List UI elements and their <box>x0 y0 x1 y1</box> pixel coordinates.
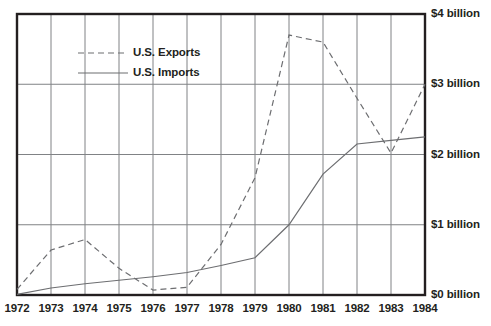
chart-plot-area <box>0 0 491 326</box>
legend-label-us-exports: U.S. Exports <box>133 46 200 58</box>
x-axis-tick-label: 1984 <box>405 302 445 314</box>
y-axis-tick-label: $2 billion <box>431 148 480 160</box>
legend-label-us-imports: U.S. Imports <box>133 66 200 78</box>
y-axis-tick-label: $4 billion <box>431 7 480 19</box>
y-axis-tick-label: $3 billion <box>431 77 480 89</box>
y-axis-tick-label: $1 billion <box>431 218 480 230</box>
y-axis-tick-label: $0 billion <box>431 288 480 300</box>
chart-container: $4 billion$3 billion$2 billion$1 billion… <box>0 0 491 326</box>
